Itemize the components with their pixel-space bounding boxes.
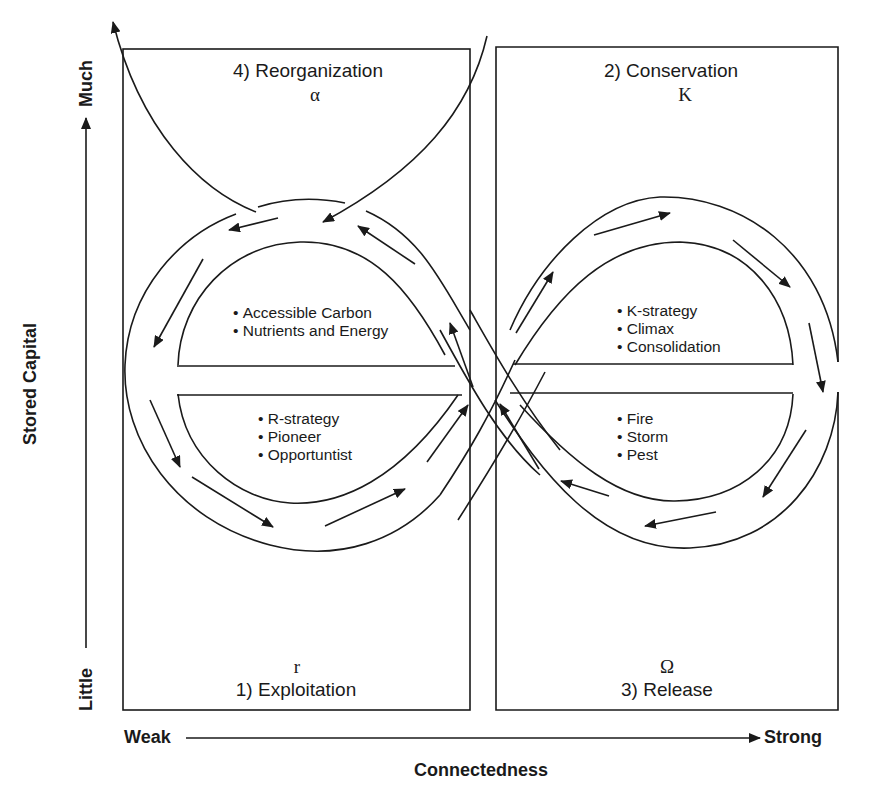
phase-conservation-label: 2) Conservation [596, 60, 746, 82]
note-item: R-strategy [258, 410, 352, 428]
phase-release-symbol: Ω [652, 656, 682, 678]
notes-upper-right: K-strategy Climax Consolidation [617, 302, 721, 356]
phase-reorganization-label: 4) Reorganization [228, 60, 388, 82]
flow-arrow [150, 400, 180, 467]
flow-arrow [516, 272, 553, 333]
left-panel-box [123, 49, 470, 710]
note-item: Nutrients and Energy [233, 322, 388, 340]
flow-arrow [809, 323, 823, 392]
flow-arrow [427, 405, 468, 462]
flow-arrow [229, 218, 278, 230]
note-item: Fire [617, 410, 668, 428]
x-axis-high-label: Strong [764, 727, 822, 748]
left-loop-outer [125, 214, 440, 551]
phase-exploitation-symbol: r [282, 656, 312, 678]
note-item: Pioneer [258, 428, 352, 446]
note-item: Opportuntist [258, 446, 352, 464]
notes-upper-left: Accessible Carbon Nutrients and Energy [233, 304, 388, 340]
left-loop-top-outer-left [258, 199, 345, 207]
flow-arrow [358, 226, 415, 264]
note-item: Climax [617, 320, 721, 338]
phase-release-label: 3) Release [612, 679, 722, 701]
note-item: Storm [617, 428, 668, 446]
x-axis-title: Connectedness [414, 760, 548, 781]
right-panel-box [496, 47, 838, 710]
y-axis-low-label: Little [76, 668, 97, 711]
phase-reorganization-symbol: α [300, 84, 330, 106]
notes-lower-left: R-strategy Pioneer Opportuntist [258, 410, 352, 464]
note-item: Consolidation [617, 338, 721, 356]
y-axis-title: Stored Capital [20, 323, 41, 445]
flow-arrow [763, 430, 806, 497]
note-item: K-strategy [617, 302, 721, 320]
note-item: Pest [617, 446, 668, 464]
x-axis-low-label: Weak [124, 727, 171, 748]
y-axis-high-label: Much [76, 60, 97, 107]
flow-arrow [325, 489, 405, 526]
notes-lower-right: Fire Storm Pest [617, 410, 668, 464]
phase-exploitation-label: 1) Exploitation [216, 679, 376, 701]
flow-arrow [645, 512, 716, 526]
adaptive-cycle-diagram [0, 0, 885, 805]
escape-curve-left [113, 22, 256, 212]
flow-arrow [594, 213, 670, 235]
flow-arrow [192, 477, 273, 527]
phase-conservation-symbol: K [670, 84, 700, 106]
note-item: Accessible Carbon [233, 304, 388, 322]
